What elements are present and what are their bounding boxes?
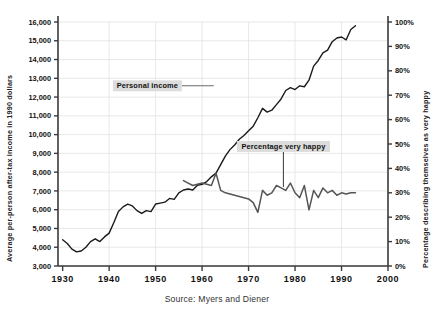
left-tick-label: 14,000 (28, 55, 51, 64)
left-tick-label: 5,000 (33, 224, 52, 233)
x-tick-label: 1960 (191, 274, 213, 284)
left-tick-label: 13,000 (28, 74, 51, 83)
right-tick-label: 10% (395, 237, 410, 246)
annotation-label: Percentage very happy (241, 142, 326, 151)
right-tick-label: 60% (395, 115, 410, 124)
x-tick-label: 1980 (284, 274, 306, 284)
left-axis-title: Average per-person after-tax income in 1… (5, 75, 14, 262)
right-axis-title: Percentage describing themselves as very… (421, 91, 430, 268)
left-tick-label: 10,000 (28, 130, 51, 139)
right-tick-label: 20% (395, 213, 410, 222)
right-tick-label: 50% (395, 140, 410, 149)
left-tick-label: 11,000 (29, 111, 51, 120)
x-tick-label: 1950 (144, 274, 166, 284)
x-tick-label: 1990 (330, 274, 352, 284)
right-tick-label: 40% (395, 164, 410, 173)
x-tick-label: 1930 (51, 274, 73, 284)
x-tick-label: 1940 (98, 274, 120, 284)
x-tick-label: 1970 (237, 274, 259, 284)
left-tick-label: 8,000 (33, 168, 52, 177)
happiness-income-line-chart: 3,0004,0005,0006,0007,0008,0009,00010,00… (0, 0, 435, 315)
right-tick-label: 70% (395, 91, 410, 100)
left-tick-label: 4,000 (33, 243, 52, 252)
annotation-label: Personal income (117, 81, 178, 90)
chart-container: 3,0004,0005,0006,0007,0008,0009,00010,00… (0, 0, 435, 315)
right-tick-label: 90% (395, 42, 410, 51)
left-tick-label: 15,000 (28, 36, 51, 45)
left-tick-label: 6,000 (33, 205, 52, 214)
right-tick-label: 100% (395, 18, 414, 27)
right-tick-label: 30% (395, 188, 410, 197)
right-tick-label: 80% (395, 66, 410, 75)
x-tick-label: 2000 (377, 274, 399, 284)
chart-background (0, 0, 435, 315)
left-tick-label: 3,000 (33, 262, 52, 271)
left-tick-label: 7,000 (33, 187, 52, 196)
left-tick-label: 16,000 (28, 18, 51, 27)
source-note: Source: Myers and Diener (165, 294, 270, 304)
left-tick-label: 12,000 (28, 93, 51, 102)
left-tick-label: 9,000 (33, 149, 52, 158)
right-tick-label: 0% (395, 262, 406, 271)
